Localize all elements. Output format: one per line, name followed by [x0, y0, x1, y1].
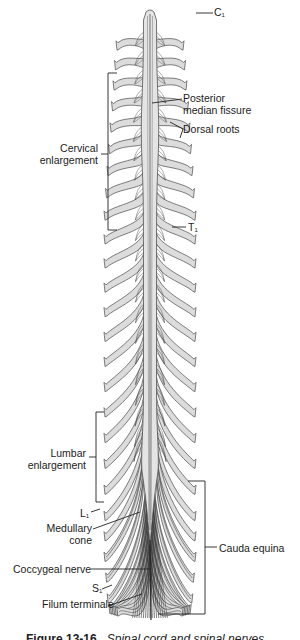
label-t1: T1 — [188, 221, 198, 236]
label-s1: S1 — [92, 582, 102, 597]
nerve-root — [156, 58, 186, 70]
leader-s1 — [102, 585, 112, 589]
nerve-root — [112, 96, 144, 111]
label-l1: L1 — [80, 507, 89, 522]
label-coccygeal-nerve: Coccygeal nerve — [13, 563, 91, 575]
leader-l1 — [91, 509, 100, 512]
label-posterior-median-fissure: Posterior median fissure — [183, 92, 251, 116]
nerve-root — [110, 115, 142, 132]
label-cervical-enlargement: Cervical enlargement — [34, 142, 98, 166]
label-dorsal-roots: Dorsal roots — [183, 123, 240, 135]
nerve-root — [156, 39, 184, 51]
nerve-root — [107, 153, 143, 176]
label-c1: C1 — [214, 6, 225, 21]
nerve-root — [156, 77, 187, 90]
figure-caption: Figure 13-16Spinal cord and spinal nerve… — [26, 631, 264, 640]
label-cauda-equina: Cauda equina — [219, 542, 284, 554]
label-medullary-cone: Medullary cone — [42, 522, 92, 546]
nerve-root — [113, 77, 144, 90]
label-filum-terminale: Filum terminale — [42, 598, 114, 610]
bracket-lumbar-enlargement — [89, 412, 104, 502]
label-lumbar-enlargement: Lumbar enlargement — [24, 447, 86, 471]
nerve-root — [157, 153, 193, 176]
nerve-root — [116, 39, 144, 51]
nerve-root — [115, 58, 145, 70]
